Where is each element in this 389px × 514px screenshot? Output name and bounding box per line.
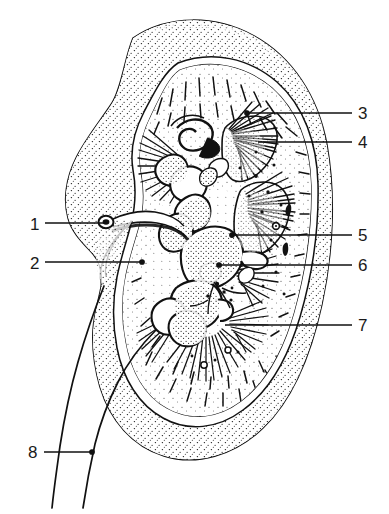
leader-dot-2 [140,260,144,264]
callout-label-2: 2 [30,255,39,272]
kidney-figure: 12345678 [0,0,389,514]
cropped-caption [0,506,389,514]
callout-label-7: 7 [358,317,367,334]
leader-dot-8 [90,450,94,454]
leader-dot-3 [245,111,249,115]
callout-label-1: 1 [30,216,39,233]
callout-label-6: 6 [358,257,367,274]
renal-artery-cross-section [99,216,114,228]
leader-dot-6 [217,263,221,267]
callout-label-8: 8 [28,444,37,461]
callout-label-3: 3 [358,105,367,122]
callout-label-5: 5 [358,227,367,244]
kidney-diagram-svg [0,0,389,514]
leader-dot-5 [230,233,234,237]
callout-label-4: 4 [358,134,367,151]
